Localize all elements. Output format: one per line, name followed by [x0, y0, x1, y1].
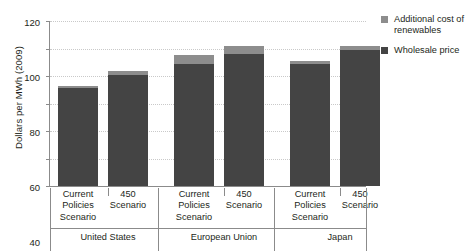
y-axis-tick-label: 120	[24, 17, 40, 28]
group-separator	[274, 188, 275, 251]
y-axis-tick: 80	[46, 76, 50, 77]
group-inner-tick	[108, 188, 109, 196]
legend-label: Wholesale price	[394, 45, 470, 56]
x-axis-labels: CurrentPoliciesScenario450ScenarioCurren…	[50, 189, 366, 229]
x-axis-label-line: Scenario	[162, 212, 226, 223]
bar-segment-wholesale-price	[224, 54, 264, 186]
bar-jp-cps	[290, 61, 330, 186]
legend-swatch-icon	[381, 16, 388, 23]
group-label-united-states: United States	[50, 232, 166, 242]
y-axis-title: Dollars per MWh (2009)	[13, 28, 24, 168]
legend-swatch-icon	[381, 47, 388, 54]
bar-us-cps	[58, 86, 98, 186]
x-axis-label-line: Scenario	[212, 200, 276, 211]
y-axis-tick-label: 60	[29, 182, 40, 193]
group-inner-tick	[340, 188, 341, 196]
chart-container: Dollars per MWh (2009) 120100806040200 C…	[0, 0, 470, 251]
x-axis-label-line: 450	[212, 189, 276, 200]
y-axis-tick-label: 40	[29, 237, 40, 248]
bar-segment-wholesale-price	[290, 64, 330, 186]
bar-us-450	[108, 71, 148, 187]
x-axis-label-jp-450: 450Scenario	[328, 189, 392, 212]
bar-segment-wholesale-price	[174, 64, 214, 186]
x-axis-label-line: 450	[328, 189, 392, 200]
bar-segment-wholesale-price	[58, 88, 98, 186]
gridline	[50, 49, 366, 50]
group-label-japan: Japan	[282, 232, 398, 242]
group-band: United StatesEuropean UnionJapan	[50, 228, 366, 251]
x-axis-label-line: 450	[96, 189, 160, 200]
legend-item-additional-cost-of-renewables: Additional cost ofrenewables	[381, 14, 470, 36]
y-axis-tick: 0	[46, 186, 50, 187]
x-axis-label-line: Scenario	[46, 212, 110, 223]
y-axis-tick: 100	[46, 49, 50, 50]
bar-eu-cps	[174, 55, 214, 186]
bar-segment-additional-cost-of-renewables	[224, 46, 264, 54]
y-axis-tick: 120	[46, 21, 50, 22]
plot-area: 120100806040200	[50, 21, 366, 186]
group-separator	[50, 188, 51, 251]
y-axis-tick: 60	[46, 104, 50, 105]
bar-segment-additional-cost-of-renewables	[174, 55, 214, 63]
legend-item-wholesale-price: Wholesale price	[381, 45, 470, 56]
gridline	[50, 21, 366, 22]
bar-segment-wholesale-price	[340, 50, 380, 186]
chart-legend: Additional cost ofrenewablesWholesale pr…	[381, 14, 470, 66]
x-axis-baseline	[49, 186, 366, 187]
y-axis-tick: 40	[46, 131, 50, 132]
group-band-top-rule	[50, 228, 366, 229]
y-axis-tick-label: 100	[24, 72, 40, 83]
bar-eu-450	[224, 46, 264, 186]
group-separator	[158, 188, 159, 251]
y-axis-tick-label: 80	[29, 127, 40, 138]
x-axis-label-line: Scenario	[328, 200, 392, 211]
group-label-european-union: European Union	[166, 232, 282, 242]
x-axis-label-eu-450: 450Scenario	[212, 189, 276, 212]
group-separator	[366, 188, 367, 251]
legend-label-line2: renewables	[394, 25, 470, 36]
x-axis-label-line: Scenario	[96, 200, 160, 211]
y-axis-tick: 20	[46, 159, 50, 160]
x-axis-label-us-450: 450Scenario	[96, 189, 160, 212]
legend-label: Additional cost of	[394, 14, 470, 25]
bar-segment-wholesale-price	[108, 75, 148, 186]
group-inner-tick	[224, 188, 225, 196]
x-axis-label-line: Scenario	[278, 212, 342, 223]
bar-jp-450	[340, 46, 380, 186]
